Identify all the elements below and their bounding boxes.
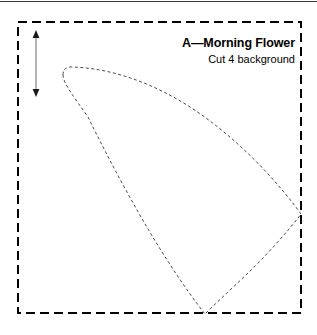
page-title: A—Morning Flower: [182, 36, 295, 52]
grain-line-double-arrow: [33, 30, 40, 97]
grain-arrowhead-up-icon: [33, 30, 40, 38]
cut-instruction-label: Cut 4 background: [182, 53, 295, 67]
grain-arrowhead-down-icon: [33, 89, 40, 97]
template-label-block: A—Morning Flower Cut 4 background: [182, 36, 295, 66]
pattern-template-page: A—Morning Flower Cut 4 background: [0, 0, 317, 335]
petal-seam-line: [63, 67, 301, 314]
